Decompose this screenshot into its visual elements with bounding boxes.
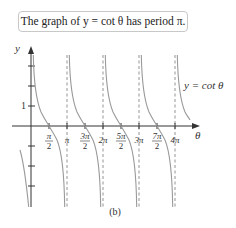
svg-text:2: 2 xyxy=(155,141,160,151)
x-axis-label: θ xyxy=(195,129,201,141)
svg-text:4π: 4π xyxy=(170,135,180,145)
y-axis-arrow-icon xyxy=(28,46,34,54)
svg-text:2: 2 xyxy=(47,141,52,151)
x-tick-labels: π 2 π 3π 2 2π 5π 2 3π 7π 2 4π xyxy=(45,131,180,151)
svg-text:π: π xyxy=(47,131,52,141)
cot-graph: y 1 θ y = cot θ π 2 π 3π 2 2π 5π 2 3π 7π… xyxy=(0,0,236,228)
svg-text:7π: 7π xyxy=(152,131,162,141)
svg-text:2: 2 xyxy=(119,141,124,151)
y-axis-label: y xyxy=(14,42,20,54)
curve-label: y = cot θ xyxy=(183,79,224,91)
cot-curves xyxy=(20,55,190,207)
axes xyxy=(12,52,196,207)
svg-text:2π: 2π xyxy=(98,135,108,145)
svg-text:3π: 3π xyxy=(133,135,144,145)
svg-text:3π: 3π xyxy=(79,131,90,141)
svg-text:5π: 5π xyxy=(116,131,126,141)
svg-text:π: π xyxy=(65,135,70,145)
y-tick-label: 1 xyxy=(21,100,26,111)
svg-text:2: 2 xyxy=(83,141,88,151)
figure-label: (b) xyxy=(109,206,121,218)
